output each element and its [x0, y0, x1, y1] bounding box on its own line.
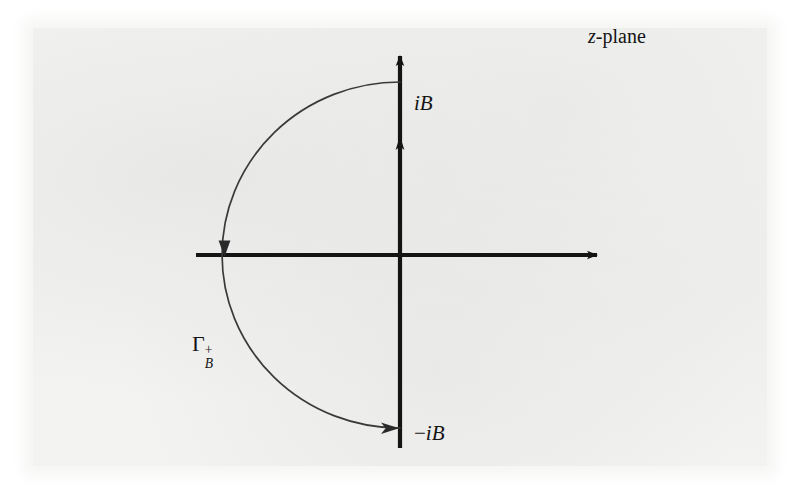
lower-endpoint-magnitude: B	[432, 421, 445, 445]
contour-label: Γ+B	[192, 333, 217, 355]
upper-endpoint-label: iB	[414, 93, 433, 114]
lower-endpoint-sign: −	[414, 421, 426, 445]
contour-end-arrow-icon	[381, 423, 399, 434]
contour-label-stack: Γ+B	[192, 333, 217, 355]
diagram-svg	[0, 0, 800, 498]
z-plane-variable: z	[588, 25, 596, 47]
z-plane-label: z-plane	[588, 26, 646, 46]
z-plane-suffix: -plane	[596, 25, 646, 47]
contour-subscript: B	[205, 357, 213, 371]
upper-endpoint-magnitude: B	[420, 91, 433, 115]
lower-endpoint-label: −iB	[414, 423, 445, 444]
contour-superscript: +	[205, 343, 213, 357]
contour-symbol: Γ	[192, 331, 205, 356]
figure-canvas: z-plane iB −iB Γ+B	[0, 0, 800, 498]
